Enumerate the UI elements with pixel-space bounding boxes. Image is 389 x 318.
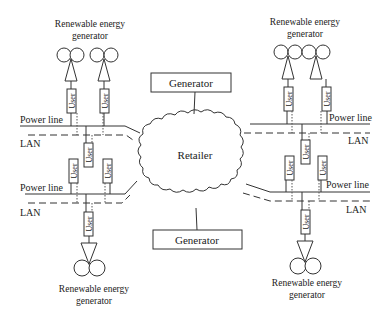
svg-text:User: User: [323, 91, 332, 106]
cluster-bottom-left: Power line LAN User User User Renewable …: [20, 159, 137, 306]
power-line-label: Power line: [326, 179, 370, 190]
retailer-label: Retailer: [178, 149, 213, 161]
generator-top: Generator: [151, 73, 231, 114]
renewable-label: Renewable energy: [55, 19, 126, 29]
svg-text:User: User: [101, 93, 110, 108]
svg-text:User: User: [302, 214, 311, 229]
lan-label: LAN: [20, 207, 41, 218]
renewable-label: Renewable energy: [272, 278, 343, 288]
svg-text:User: User: [302, 144, 311, 159]
svg-text:User: User: [286, 160, 295, 175]
renewable-label: generator: [76, 296, 113, 306]
cluster-bottom-right: Power line LAN User User User Renewable …: [243, 156, 370, 300]
retailer-cloud: Retailer: [138, 110, 243, 193]
renewable-generator-icon: [302, 45, 330, 79]
svg-text:User: User: [68, 93, 77, 108]
svg-text:User: User: [319, 160, 328, 175]
svg-text:User: User: [104, 163, 113, 178]
renewable-label: generator: [72, 31, 109, 41]
svg-text:User: User: [85, 147, 94, 162]
renewable-generator-icon: [274, 45, 302, 79]
renewable-label: generator: [289, 290, 326, 300]
svg-text:User: User: [285, 91, 294, 106]
lan-label: LAN: [348, 135, 369, 146]
generator-bottom-label: Generator: [175, 234, 219, 246]
cluster-top-left: Power line LAN Renewable energy generato…: [20, 19, 140, 167]
renewable-generator-icon: [57, 48, 84, 81]
smart-grid-diagram: Retailer Generator Generator Power line …: [0, 0, 389, 318]
renewable-label: Renewable energy: [270, 17, 341, 27]
renewable-label: generator: [287, 29, 324, 39]
generator-bottom: Generator: [153, 208, 242, 249]
renewable-generator-icon: [290, 241, 321, 274]
power-line-label: Power line: [20, 182, 64, 193]
cluster-top-right: Power line LAN Renewable energy generato…: [244, 17, 373, 164]
renewable-generator-icon: [90, 48, 118, 81]
lan-label: LAN: [20, 138, 41, 149]
renewable-generator-icon: [74, 243, 105, 276]
renewable-label: Renewable energy: [59, 284, 130, 294]
power-line-label: Power line: [20, 114, 64, 125]
svg-text:User: User: [85, 216, 94, 231]
generator-top-label: Generator: [169, 77, 213, 89]
lan-label: LAN: [346, 204, 367, 215]
power-line-label: Power line: [329, 112, 373, 123]
svg-text:User: User: [70, 163, 79, 178]
